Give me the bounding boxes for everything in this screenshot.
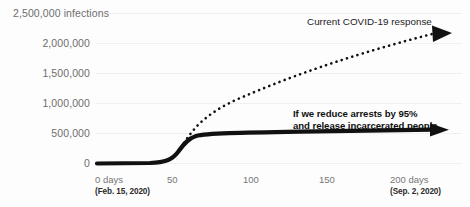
annotation-reduced-arrests-line1: If we reduce arrests by 95% — [293, 108, 418, 119]
series-arrowhead-current-response — [432, 26, 452, 43]
annotation-reduced-arrests: If we reduce arrests by 95% and release … — [293, 108, 438, 131]
infection-projection-chart: 2,500,000 infections 2,000,000 1,500,000… — [0, 0, 470, 207]
chart-plot-area — [0, 0, 470, 207]
series-line-reduced-arrests — [97, 130, 432, 164]
annotation-reduced-arrests-line2: and release incarcerated people — [293, 120, 438, 131]
annotation-current-response: Current COVID-19 response — [307, 16, 432, 28]
